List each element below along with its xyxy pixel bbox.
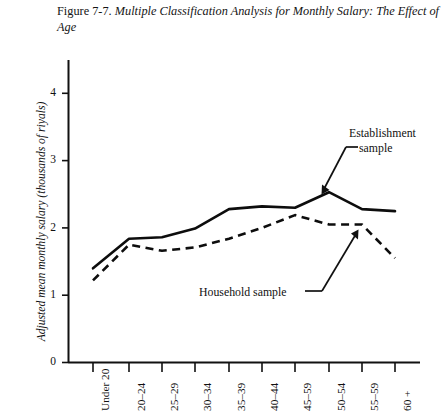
x-tick-label-50-54: 50–54 [335, 383, 347, 411]
y-tick-label-1: 1 [40, 288, 56, 300]
x-tick-label-30-34: 30–34 [201, 383, 213, 411]
series-line-household-sample [93, 215, 395, 280]
x-tick-label-20-24: 20–24 [135, 383, 147, 411]
y-tick-label-3: 3 [40, 153, 56, 165]
y-tick-label-4: 4 [40, 86, 56, 98]
y-tick-label-0: 0 [40, 355, 56, 367]
annotation-leaders [305, 147, 359, 291]
annotation-household-sample: Household sample [199, 285, 286, 300]
y-tick-label-2: 2 [40, 221, 56, 233]
x-tick-label-40-44: 40–44 [268, 383, 280, 411]
x-tick-label-25-29: 25–29 [168, 383, 180, 411]
household-arrowhead [351, 230, 359, 240]
x-axis-ticks [93, 363, 395, 373]
annotation-establishment-sample: Establishment sample [349, 126, 441, 155]
household-leader [322, 234, 356, 291]
x-tick-label-under-20: Under 20 [99, 369, 111, 411]
x-tick-label-35-39: 35–39 [235, 383, 247, 411]
series-line-establishment-sample [93, 192, 395, 268]
annotation-establishment-line1: Establishment [349, 126, 416, 140]
establishment-leader [324, 147, 346, 189]
chart-plot [0, 0, 443, 414]
x-tick-label-55-59: 55–59 [368, 383, 380, 411]
chart-area: Adjusted mean monthly salary (thousands … [0, 0, 443, 414]
x-tick-label-45-59: 45–59 [301, 383, 313, 411]
x-tick-label-60-plus: 60 + [401, 391, 413, 412]
annotation-establishment-line2: sample [349, 141, 441, 156]
